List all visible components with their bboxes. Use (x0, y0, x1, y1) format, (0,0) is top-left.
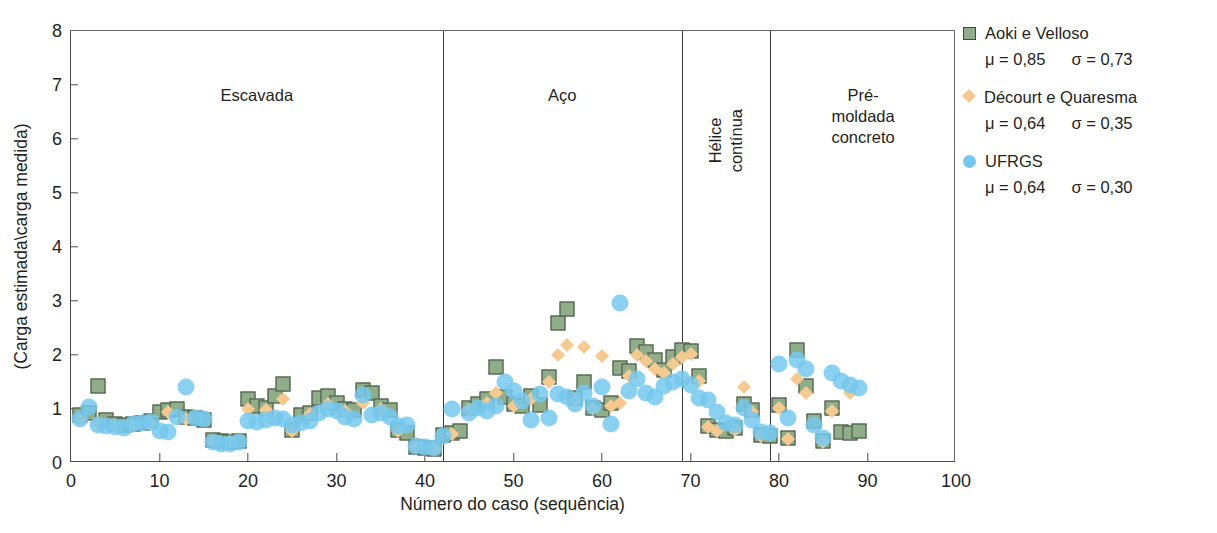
data-point-circle (178, 379, 195, 396)
x-tick-label: 60 (592, 472, 612, 490)
data-point-circle (160, 423, 177, 440)
legend-mu: μ = 0,64 (985, 178, 1045, 197)
chart-legend: Aoki e Vellosoμ = 0,85σ = 0,73Décourt e … (963, 24, 1213, 216)
y-tick-mark (71, 300, 78, 301)
data-point-circle (355, 386, 372, 403)
x-tick-label: 10 (149, 472, 169, 490)
y-tick-mark (71, 354, 78, 355)
legend-stats: μ = 0,64σ = 0,30 (985, 178, 1213, 197)
data-point-circle (399, 417, 416, 434)
legend-item[interactable]: Aoki e Vellosoμ = 0,85σ = 0,73 (963, 24, 1213, 69)
data-point-circle (80, 398, 97, 415)
legend-sigma: σ = 0,35 (1071, 114, 1132, 133)
data-point-diamond (560, 338, 574, 352)
data-point-circle (850, 380, 867, 397)
y-axis-label-text: (Carga estimada\carga medida) (11, 123, 32, 369)
x-tick-label: 90 (857, 472, 877, 490)
data-point-diamond (551, 348, 565, 362)
y-tick-mark (71, 138, 78, 139)
data-point-circle (762, 424, 779, 441)
data-point-circle (523, 411, 540, 428)
data-point-circle (169, 408, 186, 425)
data-point-circle (815, 430, 832, 447)
y-tick-label: 2 (52, 346, 62, 364)
legend-item[interactable]: UFRGSμ = 0,64σ = 0,30 (963, 152, 1213, 197)
y-tick-label: 0 (52, 454, 62, 472)
data-point-circle (797, 361, 814, 378)
x-tick-label: 40 (415, 472, 435, 490)
chart-root: (Carga estimada\carga medida) 0123456780… (0, 0, 1217, 533)
data-point-circle (231, 434, 248, 451)
x-tick-label: 80 (769, 472, 789, 490)
data-point-circle (195, 410, 212, 427)
x-tick-label: 70 (680, 472, 700, 490)
data-point-circle (585, 397, 602, 414)
region-label: Aço (548, 85, 576, 106)
data-point-square (488, 359, 503, 374)
x-axis-label: Número do caso (sequência) (70, 494, 955, 515)
data-point-circle (602, 416, 619, 433)
legend-sigma: σ = 0,30 (1071, 178, 1132, 197)
y-tick-label: 8 (52, 22, 62, 40)
data-point-circle (779, 409, 796, 426)
y-axis-label: (Carga estimada\carga medida) (8, 30, 34, 462)
data-point-square (276, 377, 291, 392)
y-tick-mark (71, 84, 78, 85)
y-tick-mark (71, 192, 78, 193)
x-tick-mark (159, 453, 160, 461)
legend-circle-icon (963, 155, 976, 168)
legend-item[interactable]: Décourt e Quaresmaμ = 0,64σ = 0,35 (963, 88, 1213, 133)
data-point-circle (346, 410, 363, 427)
legend-series-name: Aoki e Velloso (985, 24, 1089, 43)
x-tick-mark (690, 453, 691, 461)
y-tick-label: 5 (52, 184, 62, 202)
data-point-square (559, 302, 574, 317)
x-tick-label: 0 (66, 472, 76, 490)
data-point-circle (434, 428, 451, 445)
x-tick-mark (867, 453, 868, 461)
legend-sigma: σ = 0,73 (1071, 50, 1132, 69)
region-divider (682, 31, 683, 461)
x-tick-label: 100 (941, 472, 971, 490)
y-tick-mark (71, 246, 78, 247)
x-tick-mark (513, 453, 514, 461)
y-tick-label: 7 (52, 76, 62, 94)
plot-area: 0123456780102030405060708090100EscavadaA… (70, 30, 955, 462)
legend-square-icon (963, 27, 976, 40)
x-tick-label: 30 (326, 472, 346, 490)
data-point-circle (540, 409, 557, 426)
data-point-circle (487, 397, 504, 414)
y-tick-label: 1 (52, 400, 62, 418)
data-point-circle (514, 393, 531, 410)
legend-mu: μ = 0,85 (985, 50, 1045, 69)
data-point-square (851, 423, 866, 438)
x-tick-label: 20 (238, 472, 258, 490)
data-point-diamond (595, 349, 609, 363)
data-point-diamond (577, 340, 591, 354)
y-tick-label: 6 (52, 130, 62, 148)
region-label: Pré-moldada concreto (818, 85, 909, 148)
data-point-square (90, 379, 105, 394)
data-point-circle (594, 379, 611, 396)
data-point-circle (726, 417, 743, 434)
x-tick-label: 50 (503, 472, 523, 490)
y-tick-label: 3 (52, 292, 62, 310)
data-point-circle (611, 295, 628, 312)
x-tick-mark (601, 453, 602, 461)
legend-mu: μ = 0,64 (985, 114, 1045, 133)
data-point-circle (771, 355, 788, 372)
data-point-circle (532, 385, 549, 402)
region-label: Hélice contínua (704, 109, 747, 172)
legend-diamond-icon (962, 89, 976, 103)
x-tick-mark (778, 453, 779, 461)
data-point-square (550, 315, 565, 330)
legend-series-name: UFRGS (985, 152, 1043, 171)
legend-series-name: Décourt e Quaresma (984, 88, 1137, 107)
legend-stats: μ = 0,85σ = 0,73 (985, 50, 1213, 69)
x-tick-mark (336, 453, 337, 461)
data-point-circle (443, 401, 460, 418)
region-label: Escavada (221, 85, 293, 106)
data-point-diamond (737, 380, 751, 394)
region-divider (443, 31, 444, 461)
legend-stats: μ = 0,64σ = 0,35 (985, 114, 1213, 133)
